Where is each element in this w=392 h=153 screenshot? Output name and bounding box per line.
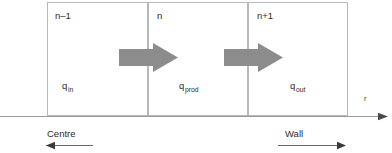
region-label-wall: Wall [285,129,303,139]
flow-arrow-2-icon [224,43,283,72]
flow-arrow-1-icon [119,43,178,72]
wall-direction-arrow [278,142,346,149]
r-axis [0,113,388,120]
region-label-centre: Centre [47,129,76,139]
r-axis-label: r [364,95,367,103]
centre-direction-arrow [46,142,93,149]
diagram-canvas: n–1 n n+1 qin qprod qout [0,0,392,153]
